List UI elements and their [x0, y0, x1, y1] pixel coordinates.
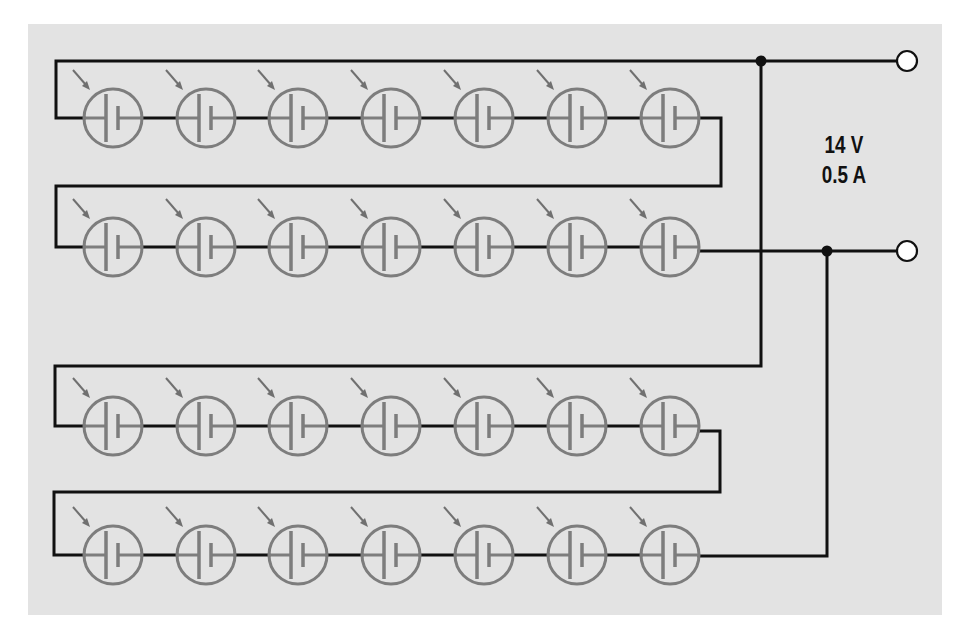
- positive-terminal: [897, 51, 917, 71]
- photovoltaic-cell-icon: [166, 378, 235, 455]
- photovoltaic-cell-icon: [630, 70, 699, 147]
- photovoltaic-cell-icon: [73, 378, 142, 455]
- photovoltaic-cell-icon: [166, 507, 235, 584]
- output-rating-label: 14 V 0.5 A: [810, 130, 879, 190]
- photovoltaic-cell-icon: [73, 199, 142, 276]
- photovoltaic-cell-icon: [258, 507, 327, 584]
- photovoltaic-cell-icon: [630, 199, 699, 276]
- photovoltaic-cell-icon: [537, 507, 606, 584]
- cell-row-2: [73, 199, 699, 276]
- photovoltaic-cell-icon: [537, 70, 606, 147]
- photovoltaic-cell-icon: [166, 70, 235, 147]
- photovoltaic-cell-icon: [630, 507, 699, 584]
- junction-dot-negative: [822, 246, 833, 257]
- photovoltaic-cell-icon: [351, 378, 420, 455]
- photovoltaic-cell-icon: [258, 199, 327, 276]
- photovoltaic-cell-icon: [351, 507, 420, 584]
- photovoltaic-cell-icon: [258, 70, 327, 147]
- photovoltaic-cell-icon: [444, 70, 513, 147]
- photovoltaic-cell-icon: [537, 199, 606, 276]
- photovoltaic-cell-icon: [73, 70, 142, 147]
- photovoltaic-cell-icon: [444, 507, 513, 584]
- cell-row-3: [73, 378, 699, 455]
- voltage-label: 14 V: [810, 130, 879, 160]
- string-2-wiring: [54, 61, 827, 556]
- cell-row-1: [73, 70, 699, 147]
- photovoltaic-cell-icon: [73, 507, 142, 584]
- cell-row-4: [73, 507, 699, 584]
- negative-terminal: [897, 241, 917, 261]
- photovoltaic-cell-icon: [351, 199, 420, 276]
- current-label: 0.5 A: [810, 160, 879, 190]
- photovoltaic-cell-icon: [444, 378, 513, 455]
- photovoltaic-cell-icon: [630, 378, 699, 455]
- photovoltaic-cell-icon: [166, 199, 235, 276]
- photovoltaic-cell-icon: [258, 378, 327, 455]
- circuit-diagram: [0, 0, 965, 637]
- junction-dot-positive: [756, 56, 767, 67]
- photovoltaic-cell-icon: [444, 199, 513, 276]
- photovoltaic-cell-icon: [351, 70, 420, 147]
- photovoltaic-cell-icon: [537, 378, 606, 455]
